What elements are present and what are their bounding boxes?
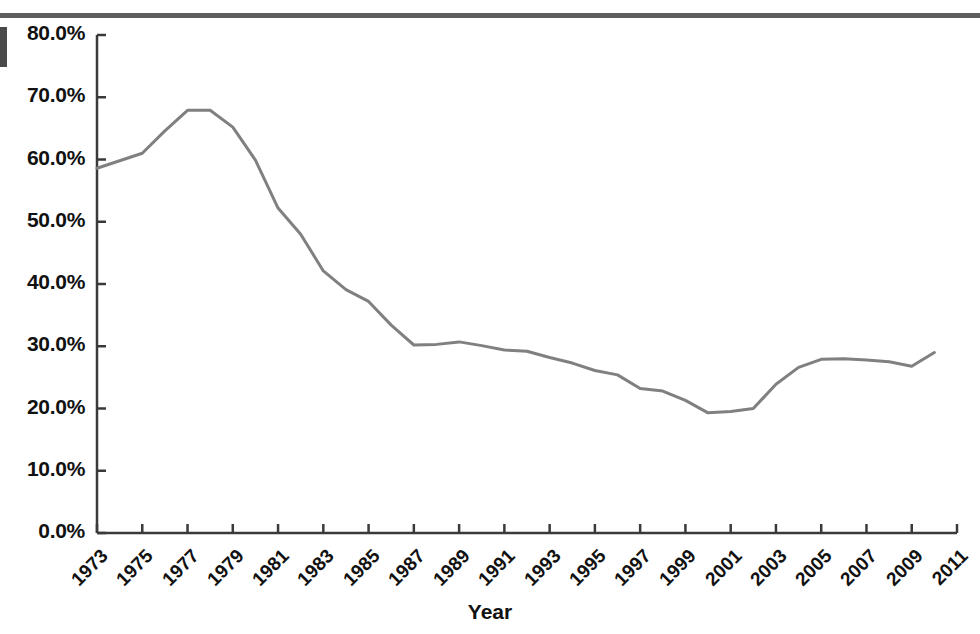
y-axis-tick-label: 30.0%	[27, 332, 85, 356]
y-axis-tick-label: 60.0%	[27, 146, 85, 170]
y-axis-tick-label: 20.0%	[27, 395, 85, 419]
y-axis-tick-label: 80.0%	[27, 21, 85, 45]
x-axis-title: Year	[0, 600, 980, 624]
y-axis-tick-label: 10.0%	[27, 457, 85, 481]
y-axis-tick-label: 70.0%	[27, 83, 85, 107]
y-axis-tick-label: 0.0%	[38, 519, 85, 543]
line-chart-plot	[0, 0, 980, 634]
y-axis-tick-label: 40.0%	[27, 270, 85, 294]
chart-figure: 0.0%10.0%20.0%30.0%40.0%50.0%60.0%70.0%8…	[0, 0, 980, 634]
data-series-line	[97, 110, 934, 413]
y-axis-tick-label: 50.0%	[27, 208, 85, 232]
